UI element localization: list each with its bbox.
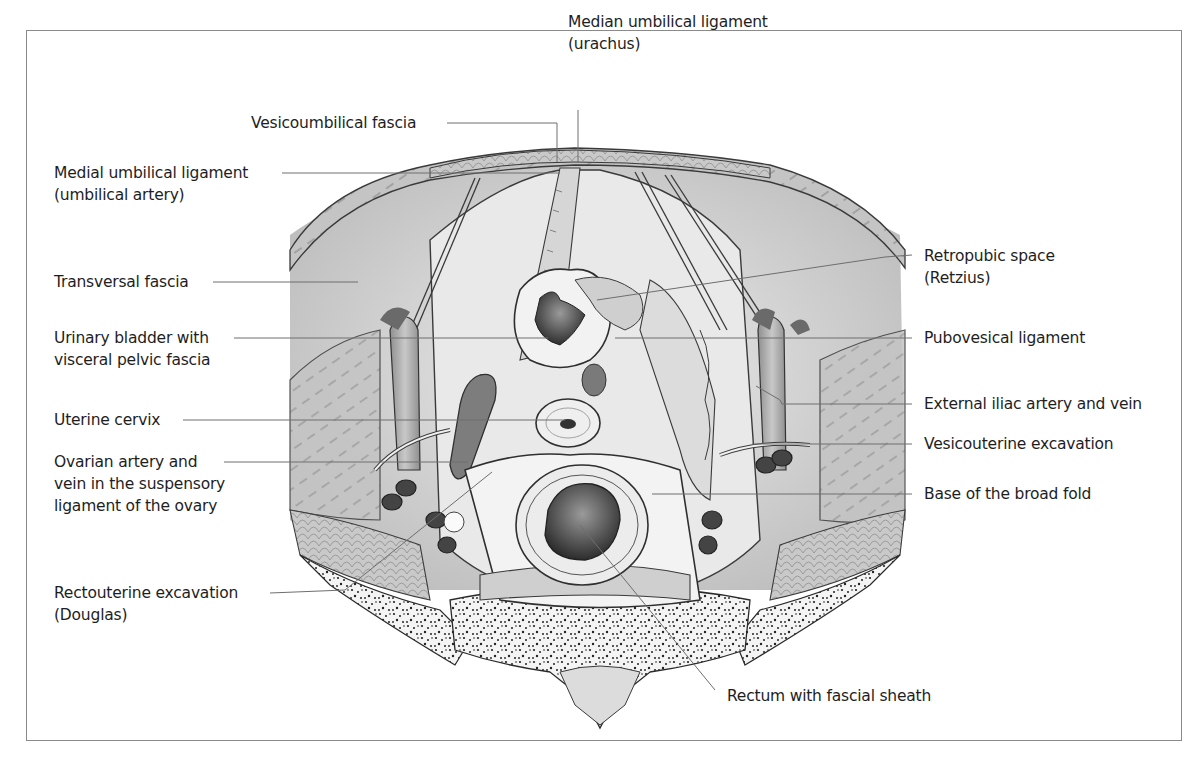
label-ovarian-artery: Ovarian artery and vein in the suspensor… [54,451,225,517]
label-pubovesical-ligament: Pubovesical ligament [924,327,1085,349]
label-retropubic-space: Retropubic space (Retzius) [924,245,1055,289]
label-external-iliac: External iliac artery and vein [924,393,1142,415]
label-medial-umbilical-ligament: Medial umbilical ligament (umbilical art… [54,162,248,206]
vessel-cross-section [772,450,792,466]
label-vesicoumbilical-fascia: Vesicoumbilical fascia [251,112,416,134]
ureter-left-node [582,364,606,396]
label-median-umbilical-ligament: Median umbilical ligament (urachus) [568,11,768,55]
vessel-cross-section [438,537,456,553]
label-base-broad-fold: Base of the broad fold [924,483,1091,505]
vessel-cross-section [702,511,722,529]
label-rectouterine-excavation: Rectouterine excavation (Douglas) [54,582,238,626]
label-transversal-fascia: Transversal fascia [54,271,189,293]
label-rectum: Rectum with fascial sheath [727,685,931,707]
sacral-canal [560,666,640,725]
label-vesicouterine-excavation: Vesicouterine excavation [924,433,1113,455]
pelvis-illustration [0,0,1200,776]
vessel-cross-section [426,512,446,528]
vessel-cross-section [699,536,717,554]
vessel-cross-section [396,480,416,496]
label-urinary-bladder: Urinary bladder with visceral pelvic fas… [54,327,210,371]
label-uterine-cervix: Uterine cervix [54,409,160,431]
vessel-cross-section [382,494,402,510]
